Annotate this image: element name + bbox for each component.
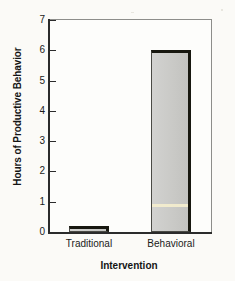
y-axis-tick: [50, 111, 56, 112]
y-axis-tick: [50, 202, 56, 203]
y-axis-tick-label: 3: [28, 136, 45, 146]
y-axis-tick: [50, 81, 56, 82]
x-axis-category-label: Traditional: [44, 238, 134, 249]
y-axis-tick-label: 4: [28, 106, 45, 116]
scan-speckle: [221, 9, 223, 11]
y-axis-tick-label: 5: [28, 76, 45, 86]
x-axis-title: Intervention: [45, 260, 213, 271]
x-axis-category-label: Behavioral: [126, 238, 216, 249]
y-axis-tick: [50, 141, 56, 142]
y-axis-tick-label: 7: [28, 15, 45, 25]
y-axis-tick: [50, 20, 56, 21]
bar-chart-figure: Hours of Productive Behavior 01234567 Tr…: [0, 0, 235, 281]
y-axis-tick-label: 6: [28, 45, 45, 55]
x-axis-line: [48, 232, 212, 234]
y-axis-title: Hours of Productive Behavior: [8, 0, 26, 233]
y-axis-tick-label: 1: [28, 197, 45, 207]
y-axis-tick: [50, 171, 56, 172]
bar-fill: [70, 229, 106, 231]
scan-speckle: [131, 12, 134, 13]
y-axis-tick: [50, 232, 56, 233]
bar-traditional: [69, 226, 109, 232]
scan-artifact-line: [152, 204, 188, 207]
y-axis-tick-label: 2: [28, 166, 45, 176]
y-axis-tick-label: 0: [28, 227, 45, 237]
y-axis-tick: [50, 50, 56, 51]
y-axis-title-text: Hours of Productive Behavior: [12, 47, 23, 185]
x-axis-title-text: Intervention: [100, 260, 157, 271]
